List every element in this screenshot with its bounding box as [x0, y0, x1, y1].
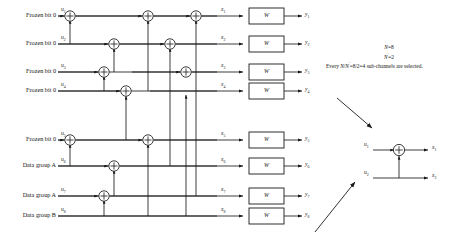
xor-nodes	[65, 11, 201, 201]
u-label-4: u4	[61, 82, 66, 90]
x-label-7: x7	[221, 187, 225, 195]
subunit-output-top-label: x1	[432, 145, 436, 153]
y-label-3: y3	[305, 68, 309, 76]
row-wires	[58, 16, 217, 216]
u-label-8: u8	[61, 207, 66, 215]
annotation-line-2: N'=2	[330, 54, 448, 60]
w-box-label-2: W	[249, 40, 284, 46]
u-label-2: u2	[61, 35, 66, 43]
x-label-4: x4	[221, 82, 225, 90]
row-label-8: Data group B	[2, 212, 56, 218]
row-label-5: Frozen bit 0	[2, 136, 56, 142]
x-label-8: x8	[221, 207, 225, 215]
w-box-label-4: W	[249, 87, 284, 93]
x-label-1: x1	[221, 7, 225, 15]
annotation-line-1: N=8	[330, 45, 448, 50]
row-label-2: Frozen bit 0	[2, 40, 56, 46]
y-label-4: y4	[305, 87, 309, 95]
subunit-input-top-label: u1	[364, 142, 369, 150]
row-label-6: Data group A	[2, 162, 56, 168]
row-label-3: Frozen bit 0	[2, 68, 56, 74]
u-label-1: u1	[61, 7, 66, 15]
y-label-7: y7	[305, 192, 309, 200]
diagram-graphics	[0, 0, 451, 237]
row-label-7: Data group A	[2, 192, 56, 198]
annotation-line-3: Every N/N'=8/2=4 sub-channels are select…	[326, 63, 423, 69]
y-label-2: y2	[305, 40, 309, 48]
u-label-3: u3	[61, 63, 66, 71]
x-label-5: x5	[221, 131, 225, 139]
y-label-6: y6	[305, 162, 309, 170]
stage3-links	[126, 20, 196, 216]
xor-plus-glyphs	[66, 12, 199, 199]
u-label-5: u5	[61, 131, 66, 139]
w-box-label-8: W	[249, 212, 284, 218]
x-label-2: x2	[221, 35, 225, 43]
row-label-1: Frozen bit 0	[2, 12, 56, 18]
row-label-4: Frozen bit 0	[2, 87, 56, 93]
subunit-output-bottom-label: x2	[432, 173, 436, 181]
to-w-arrows	[58, 16, 243, 216]
w-box-label-6: W	[249, 162, 284, 168]
diagram-canvas: Frozen bit 0 Frozen bit 0 Frozen bit 0 F…	[0, 0, 451, 237]
subunit-input-bottom-label: u2	[364, 170, 369, 178]
x-label-6: x6	[221, 157, 225, 165]
w-box-label-3: W	[249, 68, 284, 74]
stage2-links	[114, 20, 148, 216]
y-label-1: y1	[305, 12, 309, 20]
y-label-5: y5	[305, 136, 309, 144]
w-output-arrows	[284, 16, 302, 216]
stage1-links	[70, 20, 104, 216]
x-label-3: x3	[221, 63, 225, 71]
w-box-label-1: W	[249, 12, 284, 18]
selection-arrows	[315, 98, 372, 232]
y-label-8: y8	[305, 212, 309, 220]
u-label-7: u7	[61, 187, 66, 195]
u-label-6: u6	[61, 157, 66, 165]
w-box-label-5: W	[249, 136, 284, 142]
w-box-label-7: W	[249, 192, 284, 198]
